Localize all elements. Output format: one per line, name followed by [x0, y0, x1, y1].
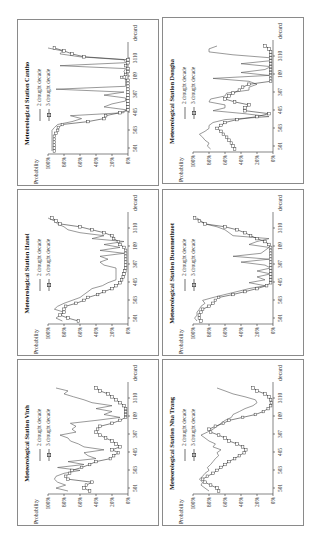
x-tick-label: 501: [277, 314, 283, 322]
data-point-marker: [244, 290, 247, 293]
y-tick-label: 40%: [238, 327, 244, 337]
data-point-marker: [269, 270, 272, 273]
x-tick-label: 405: [277, 278, 283, 286]
data-point-marker: [55, 132, 58, 135]
data-point-marker: [53, 144, 56, 147]
data-point-marker: [269, 267, 272, 270]
data-point-marker: [254, 413, 257, 416]
data-point-marker: [200, 320, 203, 323]
data-point-marker: [224, 226, 227, 229]
data-point-marker: [115, 443, 118, 446]
x-tick-label: 405: [277, 106, 283, 114]
data-point-marker: [200, 311, 203, 314]
data-point-marker: [269, 80, 272, 83]
data-point-marker: [264, 240, 267, 243]
y-tick-label: 0%: [125, 156, 131, 164]
data-point-marker: [256, 237, 259, 240]
x-tick-label: 307: [277, 260, 283, 268]
plot-area: 100%80%60%40%20%0%5015034053071093110dec…: [163, 18, 304, 184]
data-point-marker: [127, 94, 130, 97]
data-point-marker: [111, 234, 114, 237]
data-point-marker: [103, 231, 106, 234]
data-point-marker: [248, 104, 251, 107]
data-point-marker: [111, 422, 114, 425]
data-point-marker: [217, 296, 220, 299]
x-tick-label: 503: [132, 296, 138, 304]
data-point-marker: [112, 237, 115, 240]
y-tick-label: 0%: [270, 154, 276, 162]
data-point-marker: [112, 454, 115, 457]
data-point-marker: [63, 50, 66, 53]
data-point-marker: [256, 287, 259, 290]
data-point-marker: [83, 487, 86, 490]
y-tick-label: 40%: [238, 155, 244, 165]
data-point-marker: [88, 463, 91, 466]
x-tick-label: 109: [132, 412, 138, 420]
series-2-drought-decade: [195, 218, 271, 321]
data-point-marker: [124, 64, 127, 67]
data-point-marker: [127, 88, 130, 91]
data-point-marker: [119, 401, 122, 404]
series-3-drought-decade: [203, 388, 272, 491]
y-tick-label: 80%: [61, 497, 67, 507]
chart-hanoi: Meteorological Station Hanoi Probability…: [18, 190, 159, 356]
y-tick-label: 60%: [222, 497, 228, 507]
data-point-marker: [248, 83, 251, 86]
data-point-marker: [269, 65, 272, 68]
data-point-marker: [269, 56, 272, 59]
data-point-marker: [115, 284, 118, 287]
data-point-marker: [124, 410, 127, 413]
y-tick-label: 100%: [190, 154, 196, 167]
data-point-marker: [67, 317, 70, 320]
data-point-marker: [224, 463, 227, 466]
data-point-marker: [269, 68, 272, 71]
x-axis-label: decard: [277, 195, 283, 211]
data-point-marker: [256, 115, 259, 118]
data-point-marker: [99, 390, 102, 393]
y-tick-label: 20%: [109, 497, 115, 507]
y-tick-label: 40%: [93, 327, 99, 337]
x-tick-label: 3110: [132, 392, 138, 403]
x-tick-label: 503: [277, 296, 283, 304]
x-axis-label: decard: [132, 195, 138, 211]
data-point-marker: [51, 217, 54, 220]
data-point-marker: [268, 243, 271, 246]
plot-area: 100%80%60%40%20%0%5015034053071093110dec…: [18, 20, 159, 186]
data-point-marker: [228, 440, 231, 443]
y-tick-label: 60%: [77, 327, 83, 337]
data-point-marker: [269, 264, 272, 267]
y-tick-label: 0%: [270, 326, 276, 334]
data-point-marker: [241, 86, 244, 89]
data-point-marker: [124, 413, 127, 416]
data-point-marker: [214, 299, 217, 302]
data-point-marker: [56, 129, 59, 132]
data-point-marker: [224, 121, 227, 124]
chart-vinh: Meteorological Station Vinh Probability …: [18, 360, 159, 526]
data-point-marker: [269, 54, 272, 57]
data-point-marker: [201, 308, 204, 311]
data-point-marker: [127, 85, 130, 88]
y-tick-label: 0%: [270, 496, 276, 504]
data-point-marker: [87, 120, 90, 123]
x-tick-label: 3110: [132, 222, 138, 233]
data-point-marker: [217, 490, 220, 493]
y-tick-label: 40%: [93, 157, 99, 167]
data-point-marker: [269, 255, 272, 258]
data-point-marker: [107, 393, 110, 396]
y-tick-label: 100%: [45, 326, 51, 339]
data-point-marker: [53, 147, 56, 150]
x-tick-label: 109: [277, 70, 283, 78]
data-point-marker: [122, 276, 125, 279]
data-point-marker: [252, 387, 255, 390]
x-tick-label: 501: [132, 484, 138, 492]
data-point-marker: [269, 398, 272, 401]
data-point-marker: [64, 475, 67, 478]
x-tick-label: 3110: [277, 222, 283, 233]
x-tick-label: 307: [132, 90, 138, 98]
data-point-marker: [83, 299, 86, 302]
data-point-marker: [269, 246, 272, 249]
data-point-marker: [63, 311, 66, 314]
data-point-marker: [103, 290, 106, 293]
data-point-marker: [236, 118, 239, 121]
data-point-marker: [99, 425, 102, 428]
